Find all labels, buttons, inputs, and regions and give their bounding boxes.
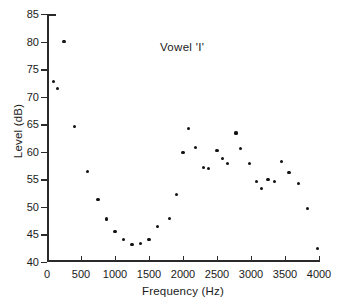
data-point [113, 230, 116, 233]
data-point [280, 160, 283, 163]
x-tick-label: 3500 [273, 269, 297, 280]
data-point [248, 162, 251, 165]
data-point [273, 180, 276, 183]
y-tick-label: 40 [27, 257, 39, 268]
x-tick-label: 1500 [137, 269, 161, 280]
x-tick [47, 256, 48, 262]
y-tick-label: 65 [27, 119, 39, 130]
data-point [105, 217, 108, 220]
data-point [287, 171, 290, 174]
y-tick [41, 234, 47, 235]
data-point [156, 225, 159, 228]
data-point [316, 247, 319, 250]
data-point [175, 193, 178, 196]
x-tick [183, 256, 184, 262]
x-tick-label: 2000 [171, 269, 195, 280]
y-tick [41, 14, 47, 15]
x-tick-label: 500 [72, 269, 90, 280]
y-tick [41, 69, 47, 70]
x-tick [81, 256, 82, 262]
data-point [255, 180, 258, 183]
x-tick-label: 4000 [307, 269, 331, 280]
y-tick-label: 55 [27, 174, 39, 185]
data-point [187, 127, 190, 130]
y-tick [41, 179, 47, 180]
data-point [73, 125, 76, 128]
data-point [215, 149, 218, 152]
data-point [122, 238, 125, 241]
data-point [306, 207, 309, 210]
data-point [86, 170, 89, 173]
y-tick-label: 45 [27, 229, 39, 240]
data-point [260, 187, 263, 190]
plot-annotation: Vowel 'I' [160, 41, 204, 53]
data-point [130, 243, 133, 246]
data-point [147, 238, 150, 241]
data-point [234, 131, 237, 134]
data-point [62, 40, 65, 43]
y-tick [41, 262, 47, 263]
data-point [239, 147, 242, 150]
x-tick [149, 256, 150, 262]
data-point [52, 80, 55, 83]
data-point [168, 217, 171, 220]
y-tick-label: 80 [27, 36, 39, 47]
data-point [181, 151, 184, 154]
y-tick-label: 85 [27, 9, 39, 20]
y-tick-label: 60 [27, 146, 39, 157]
x-tick-label: 1000 [103, 269, 127, 280]
data-point [194, 146, 197, 149]
x-tick-label: 0 [44, 269, 50, 280]
x-tick [217, 256, 218, 262]
y-tick [41, 42, 47, 43]
x-axis-title: Frequency (Hz) [47, 285, 319, 297]
y-tick [41, 97, 47, 98]
data-point [202, 166, 205, 169]
data-point [96, 198, 99, 201]
data-point [297, 182, 300, 185]
y-tick-label: 50 [27, 201, 39, 212]
y-tick [41, 152, 47, 153]
data-point [56, 87, 59, 90]
y-tick-label: 70 [27, 91, 39, 102]
y-axis-title: Level (dB) [12, 86, 24, 176]
x-tick-label: 2500 [205, 269, 229, 280]
x-tick [285, 256, 286, 262]
data-point [226, 162, 229, 165]
scatter-chart: 40455055606570758085 0500100015002000250… [0, 0, 347, 307]
data-point [266, 178, 269, 181]
top-axis-stub [47, 14, 56, 16]
data-point [207, 167, 210, 170]
x-tick [319, 256, 320, 262]
x-tick-label: 3000 [239, 269, 263, 280]
data-point [221, 157, 224, 160]
x-tick [115, 256, 116, 262]
y-tick-label: 75 [27, 64, 39, 75]
y-tick [41, 124, 47, 125]
y-tick [41, 207, 47, 208]
data-point [139, 242, 142, 245]
y-axis-line [47, 14, 49, 262]
x-tick [251, 256, 252, 262]
